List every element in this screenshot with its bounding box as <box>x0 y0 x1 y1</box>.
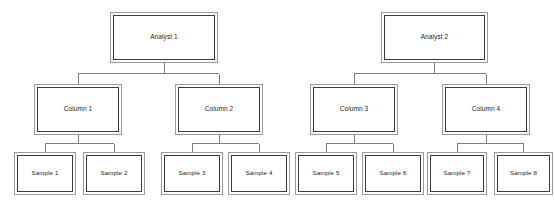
node-analyst2-label: Analyst 2 <box>421 34 449 41</box>
node-sample3-body: Sample 3 <box>164 155 220 192</box>
node-analyst2-body: Analyst 2 <box>384 15 485 60</box>
node-sample1[interactable]: Sample 1 <box>14 152 76 195</box>
node-analyst1-label: Analyst 1 <box>150 34 178 41</box>
node-sample4-label: Sample 4 <box>246 170 273 176</box>
node-sample6[interactable]: Sample 6 <box>362 152 424 195</box>
node-sample1-label: Sample 1 <box>32 170 59 176</box>
node-column1-body: Column 1 <box>37 87 119 132</box>
node-sample6-label: Sample 6 <box>380 170 407 176</box>
diagram-canvas: Analyst 1 Analyst 2 Column 1 Column 2 Co… <box>0 0 554 210</box>
node-column2-body: Column 2 <box>178 87 260 132</box>
node-column4[interactable]: Column 4 <box>442 84 530 135</box>
node-sample4[interactable]: Sample 4 <box>228 152 290 195</box>
node-column3-label: Column 3 <box>340 106 369 113</box>
node-analyst1[interactable]: Analyst 1 <box>110 12 218 63</box>
node-column2[interactable]: Column 2 <box>175 84 263 135</box>
node-sample6-body: Sample 6 <box>365 155 421 192</box>
node-sample4-body: Sample 4 <box>231 155 287 192</box>
node-sample8[interactable]: Sample 8 <box>494 152 553 195</box>
node-column4-body: Column 4 <box>445 87 527 132</box>
node-column3-body: Column 3 <box>313 87 395 132</box>
node-column1-label: Column 1 <box>64 106 93 113</box>
node-sample2-body: Sample 2 <box>86 155 142 192</box>
node-sample5-label: Sample 5 <box>313 170 340 176</box>
node-column2-label: Column 2 <box>205 106 234 113</box>
node-sample5-body: Sample 5 <box>298 155 354 192</box>
node-sample8-label: Sample 8 <box>510 170 537 176</box>
node-sample1-body: Sample 1 <box>17 155 73 192</box>
node-sample3-label: Sample 3 <box>179 170 206 176</box>
node-column1[interactable]: Column 1 <box>34 84 122 135</box>
node-sample7-label: Sample 7 <box>444 170 471 176</box>
node-sample3[interactable]: Sample 3 <box>161 152 223 195</box>
node-sample7-body: Sample 7 <box>430 155 484 192</box>
node-analyst2[interactable]: Analyst 2 <box>381 12 488 63</box>
node-column3[interactable]: Column 3 <box>310 84 398 135</box>
node-column4-label: Column 4 <box>472 106 501 113</box>
node-sample7[interactable]: Sample 7 <box>427 152 487 195</box>
node-sample2-label: Sample 2 <box>101 170 128 176</box>
node-sample8-body: Sample 8 <box>497 155 550 192</box>
node-sample2[interactable]: Sample 2 <box>83 152 145 195</box>
node-sample5[interactable]: Sample 5 <box>295 152 357 195</box>
node-analyst1-body: Analyst 1 <box>113 15 215 60</box>
